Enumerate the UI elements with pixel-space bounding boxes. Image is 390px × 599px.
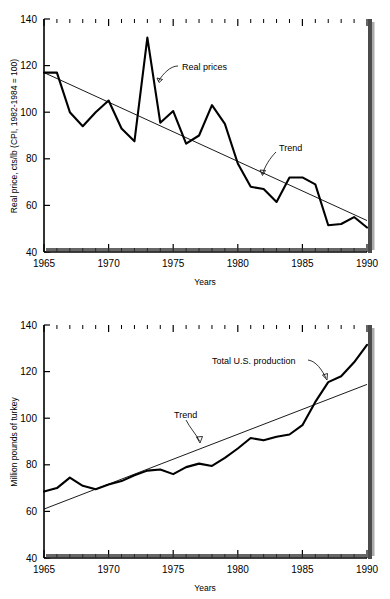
total-production-label: Total U.S. production [212, 356, 296, 366]
y-tick-label: 100 [20, 413, 37, 424]
x-tick-group [44, 325, 367, 558]
x-tick-label-group: 196519701975198019851990 [33, 564, 379, 575]
y-tick-label: 120 [20, 60, 37, 71]
scan-edge-artifact [368, 19, 372, 253]
scan-baseline-artifact [46, 248, 366, 252]
scan-edge-artifact-2 [372, 22, 375, 250]
y-tick-label: 40 [26, 247, 38, 258]
y-tick-label-group: 406080100120140 [20, 14, 37, 258]
trend-label-bottom: Trend [174, 410, 197, 420]
x-tick-label: 1990 [356, 564, 379, 575]
x-tick-label: 1975 [162, 258, 185, 269]
real-price-chart-svg: 406080100120140 196519701975198019851990… [0, 0, 390, 300]
x-tick-label: 1980 [227, 564, 250, 575]
y-tick-label: 140 [20, 14, 37, 25]
y-tick-label: 60 [26, 506, 38, 517]
real-prices-leader [159, 66, 179, 81]
production-chart: 406080100120140 196519701975198019851990… [0, 300, 390, 599]
x-axis-title-top: Years [194, 277, 215, 287]
trend-leader-bottom [186, 420, 200, 441]
plot-frame-top [44, 19, 367, 252]
x-tick-group [44, 19, 367, 252]
y-tick-group [44, 325, 50, 558]
scan-baseline-artifact [46, 554, 366, 558]
plot-frame-bottom [44, 325, 367, 558]
trend-line [44, 384, 367, 509]
x-tick-label: 1970 [97, 258, 120, 269]
production-chart-svg: 406080100120140 196519701975198019851990… [0, 300, 390, 599]
x-tick-label: 1965 [33, 258, 56, 269]
y-tick-label: 100 [20, 107, 37, 118]
x-tick-label: 1985 [291, 258, 314, 269]
trend-label-top: Trend [279, 143, 302, 153]
scan-edge-artifact-2 [372, 328, 375, 556]
figure-page: 406080100120140 196519701975198019851990… [0, 0, 390, 599]
x-tick-label: 1970 [97, 564, 120, 575]
x-tick-label: 1985 [291, 564, 314, 575]
x-tick-label: 1965 [33, 564, 56, 575]
x-tick-label: 1980 [227, 258, 250, 269]
y-tick-label: 140 [20, 320, 37, 331]
y-tick-label: 60 [26, 200, 38, 211]
y-axis-title-bottom: Million pounds of turkey [9, 397, 19, 487]
y-tick-label: 80 [26, 153, 38, 164]
y-axis-title-top: Real price, cts/lb (CPI, 1982-1984 = 100… [9, 59, 19, 213]
scan-edge-artifact [368, 325, 372, 559]
y-tick-label-group: 406080100120140 [20, 320, 37, 564]
real-price-chart: 406080100120140 196519701975198019851990… [0, 0, 390, 300]
x-tick-label: 1975 [162, 564, 185, 575]
y-tick-label: 40 [26, 553, 38, 564]
x-axis-title-bottom: Years [194, 583, 215, 593]
y-tick-group [44, 19, 50, 252]
x-tick-label-group: 196519701975198019851990 [33, 258, 379, 269]
trend-line [44, 73, 367, 221]
y-tick-label: 120 [20, 366, 37, 377]
y-tick-label: 80 [26, 459, 38, 470]
real-prices-arrowhead [157, 78, 163, 83]
real-prices-label: Real prices [182, 62, 228, 72]
x-tick-label: 1990 [356, 258, 379, 269]
